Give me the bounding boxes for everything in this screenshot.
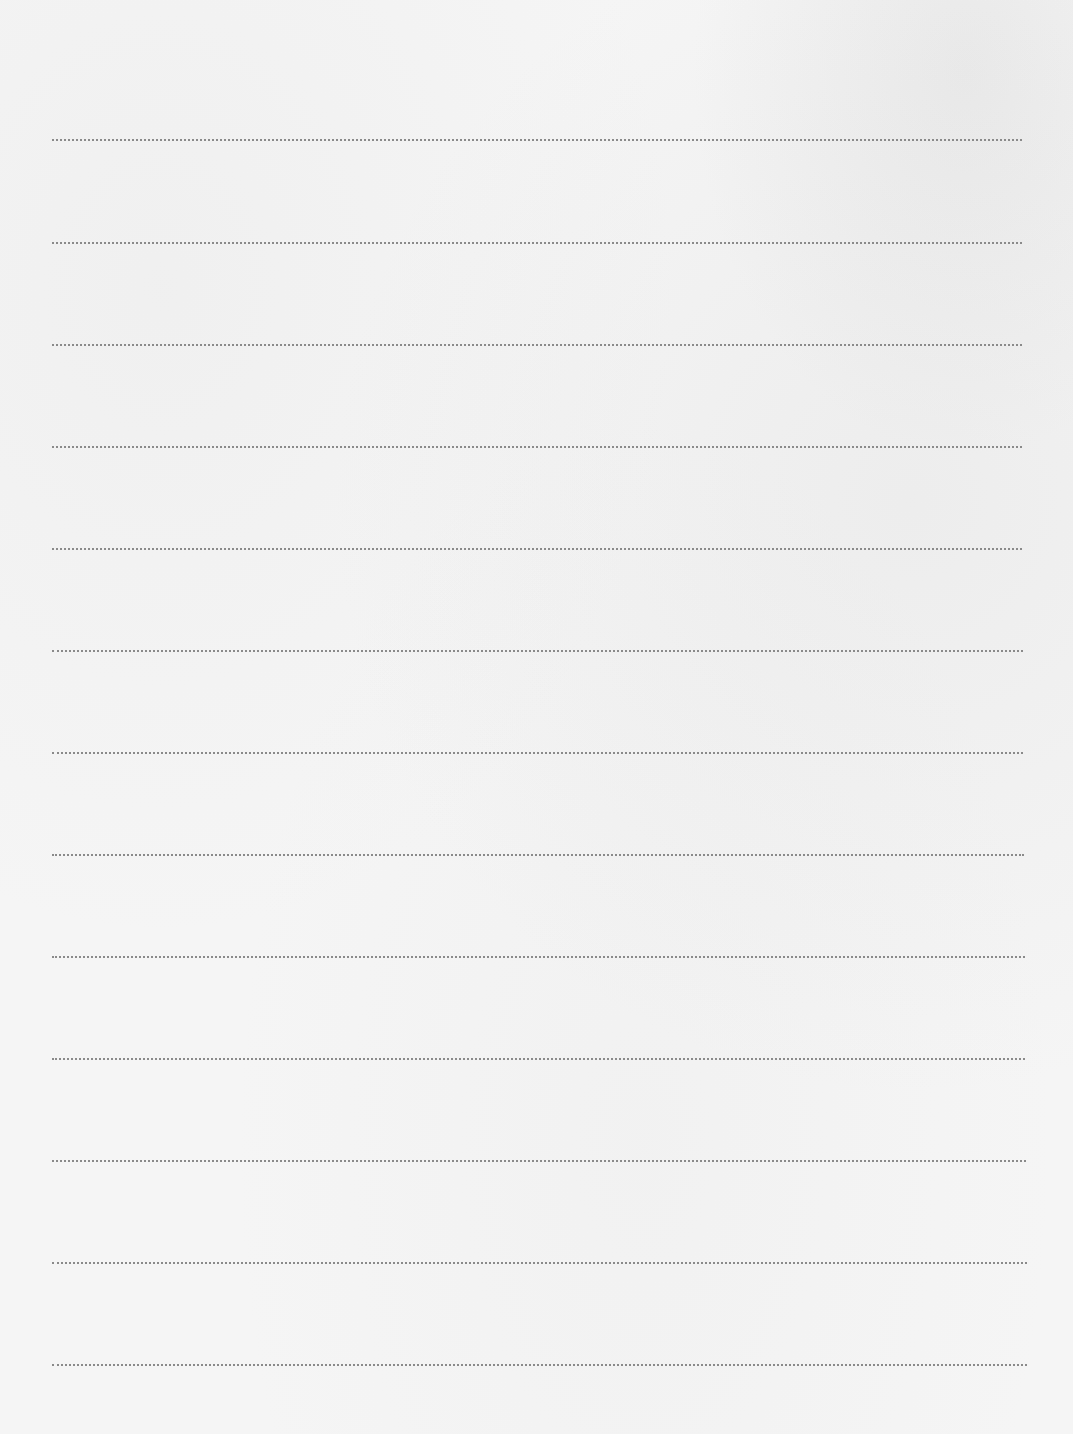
writing-line-3 (52, 344, 1022, 346)
writing-line-7 (52, 752, 1023, 754)
lined-paper-sheet (0, 0, 1073, 1434)
writing-line-2 (52, 242, 1022, 244)
writing-line-8 (52, 854, 1024, 856)
writing-line-10 (52, 1058, 1025, 1060)
writing-line-4 (52, 446, 1022, 448)
writing-line-6 (52, 650, 1023, 652)
writing-line-11 (52, 1160, 1026, 1162)
writing-line-1 (52, 139, 1022, 141)
writing-line-9 (52, 956, 1025, 958)
writing-line-12 (52, 1262, 1027, 1264)
writing-line-5 (52, 548, 1022, 550)
writing-line-13 (52, 1364, 1027, 1366)
